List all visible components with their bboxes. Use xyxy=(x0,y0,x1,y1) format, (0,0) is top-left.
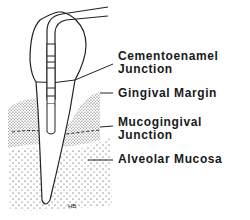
label-line: Gingival Margin xyxy=(118,87,217,100)
label-line: Alveolar Mucosa xyxy=(118,153,222,166)
label-line: Junction xyxy=(118,63,219,76)
label-cementoenamel-junction: Cementoenamel Junction xyxy=(118,50,219,76)
label-alveolar-mucosa: Alveolar Mucosa xyxy=(118,153,222,166)
label-gingival-margin: Gingival Margin xyxy=(118,87,217,100)
tooth-diagram: HB xyxy=(0,0,250,220)
label-line: Junction xyxy=(118,129,202,142)
label-mucogingival-junction: Mucogingival Junction xyxy=(118,116,202,142)
signature: HB xyxy=(68,203,76,209)
